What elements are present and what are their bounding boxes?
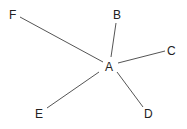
node-label-c: C bbox=[167, 44, 176, 58]
star-diagram: A B C D E F bbox=[0, 0, 187, 129]
edge-a-f bbox=[20, 17, 103, 62]
edge-a-b bbox=[111, 23, 116, 57]
node-label-f: F bbox=[9, 8, 16, 22]
edge-a-d bbox=[117, 72, 143, 107]
edge-a-e bbox=[47, 72, 99, 108]
node-label-d: D bbox=[144, 107, 153, 121]
edge-a-c bbox=[118, 51, 165, 63]
node-label-a: A bbox=[105, 60, 113, 74]
node-label-b: B bbox=[113, 8, 121, 22]
node-label-e: E bbox=[35, 107, 43, 121]
